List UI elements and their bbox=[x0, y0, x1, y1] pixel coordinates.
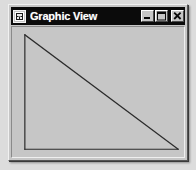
shape-layer bbox=[25, 35, 178, 149]
window-title: Graphic View bbox=[30, 10, 141, 23]
maximize-button[interactable] bbox=[155, 10, 168, 22]
graphics-client-area[interactable] bbox=[11, 26, 185, 158]
application-icon[interactable] bbox=[13, 10, 26, 23]
window-controls bbox=[141, 10, 184, 22]
title-bar[interactable]: Graphic View bbox=[11, 7, 185, 25]
hypotenuse bbox=[25, 35, 178, 149]
close-button[interactable] bbox=[171, 10, 184, 22]
triangle-drawing bbox=[12, 27, 184, 157]
application-window: Graphic View bbox=[8, 4, 188, 161]
minimize-button[interactable] bbox=[141, 10, 154, 22]
